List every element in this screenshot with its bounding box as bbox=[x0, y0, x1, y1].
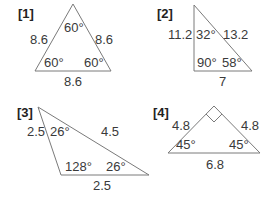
figure-2-side-hypotenuse: 13.2 bbox=[223, 28, 248, 41]
figure-3-side-top: 4.5 bbox=[101, 125, 119, 138]
figure-3-angle-top: 26° bbox=[50, 125, 70, 138]
figure-4-side-right: 4.8 bbox=[241, 119, 259, 132]
figure-4-angle-bottom-right: 45° bbox=[229, 138, 249, 151]
figure-1-side-left: 8.6 bbox=[30, 33, 48, 46]
figure-2-angle-top: 32° bbox=[196, 28, 216, 41]
figure-3-side-left: 2.5 bbox=[27, 125, 45, 138]
figure-1-angle-top: 60° bbox=[64, 21, 84, 34]
figure-3-angle-bottom-left: 128° bbox=[65, 160, 92, 173]
figure-2-angle-bottom-left: 90° bbox=[197, 56, 217, 69]
figure-2-side-left: 11.2 bbox=[168, 28, 192, 41]
figure-1-side-bottom: 8.6 bbox=[64, 75, 82, 88]
figure-3-angle-bottom-right: 26° bbox=[106, 160, 126, 173]
figure-2-number: [2] bbox=[157, 7, 173, 20]
figure-4-side-bottom: 6.8 bbox=[206, 158, 224, 171]
figure-4-number: [4] bbox=[153, 106, 169, 119]
figure-4-angle-bottom-left: 45° bbox=[176, 138, 196, 151]
figure-2-side-bottom: 7 bbox=[219, 75, 226, 88]
figure-3-number: [3] bbox=[17, 106, 33, 119]
right-angle-marker bbox=[206, 114, 222, 122]
figure-4-side-left: 4.8 bbox=[172, 119, 190, 132]
figure-1-side-right: 8.6 bbox=[95, 33, 113, 46]
figure-3-side-bottom: 2.5 bbox=[93, 179, 111, 192]
triangle-3 bbox=[38, 107, 149, 175]
figure-1-number: [1] bbox=[18, 7, 34, 20]
figure-1-angle-bottom-left: 60° bbox=[44, 56, 64, 69]
figure-2-angle-bottom-right: 58° bbox=[222, 56, 242, 69]
figure-1-angle-bottom-right: 60° bbox=[84, 56, 104, 69]
